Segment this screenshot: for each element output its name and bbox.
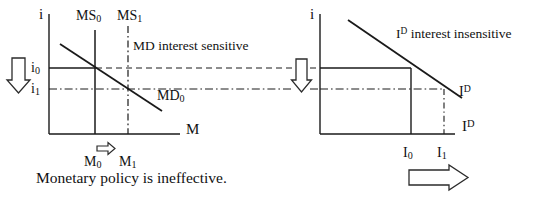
right-xtick-i1-sub: 1 (442, 150, 447, 161)
figure-canvas: i M i0 i1 M0 M1 MS0 MS1 MD0 MD interest … (0, 0, 535, 199)
ms0-label: MS0 (76, 9, 101, 24)
left-y-axis-label: i (39, 7, 43, 22)
left-ytick-i0-sub: 0 (35, 65, 40, 76)
md-sensitivity-note: MD interest sensitive (133, 39, 248, 53)
id-sensitivity-note-body: interest insensitive (411, 26, 512, 41)
left-xtick-m1: M1 (119, 155, 137, 170)
ms1-label-base: MS (117, 8, 137, 23)
md0-label: MD0 (157, 89, 185, 104)
ms0-label-base: MS (76, 8, 96, 23)
interest-rate-falls-arrow-right (292, 59, 312, 92)
left-x-axis-label: M (186, 122, 199, 137)
right-xtick-i0: I0 (403, 146, 413, 161)
md0-label-base: MD (157, 88, 180, 103)
ms0-label-sub: 0 (96, 13, 101, 24)
left-ytick-i1: i1 (31, 82, 40, 97)
interest-rate-falls-arrow-left (7, 58, 30, 93)
id-curve-label: ID (459, 84, 471, 99)
right-xtick-i1: I1 (437, 146, 447, 161)
left-xtick-m1-base: M (119, 154, 131, 169)
ms1-label: MS1 (117, 9, 142, 24)
md0-demand-curve (60, 44, 162, 111)
figure-caption: Monetary policy is ineffective. (36, 170, 227, 186)
left-xtick-m0: M0 (84, 155, 102, 170)
md0-label-sub: 0 (180, 93, 185, 104)
investment-rises-arrow (409, 165, 468, 190)
right-y-axis-label: i (310, 7, 314, 22)
left-ytick-i1-sub: 1 (35, 86, 40, 97)
left-xtick-m0-base: M (84, 154, 96, 169)
left-panel-axes (49, 14, 180, 134)
id-curve-label-sup: D (464, 83, 471, 94)
ms1-label-sub: 1 (137, 13, 142, 24)
money-supply-rises-arrow (97, 143, 115, 155)
left-ytick-i0: i0 (31, 61, 40, 76)
id-sensitivity-note: ID interest insensitive (396, 27, 512, 41)
right-x-axis-label: ID (462, 119, 475, 134)
right-x-axis-label-sup: D (467, 118, 475, 129)
right-xtick-i0-sub: 0 (408, 150, 413, 161)
